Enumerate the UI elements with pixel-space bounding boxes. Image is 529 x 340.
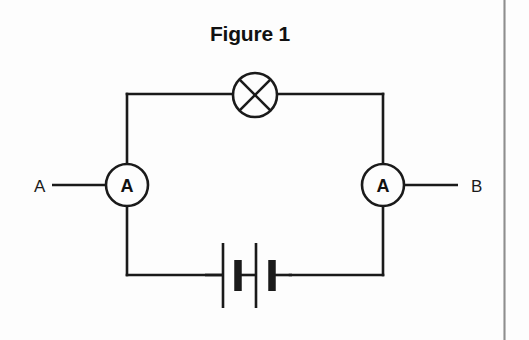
ammeter-left-symbol: A <box>106 164 148 206</box>
figure-container: Figure 1 <box>0 0 529 340</box>
circuit-diagram: A A A <box>0 0 529 340</box>
lamp-symbol <box>233 73 277 117</box>
page-margin-line <box>503 0 506 340</box>
battery-symbol <box>205 243 292 308</box>
ammeter-right-label: A <box>377 176 390 196</box>
terminal-a-group: A <box>34 177 106 196</box>
ammeter-right-symbol: A <box>362 164 404 206</box>
terminal-b-label: B <box>471 177 482 196</box>
terminal-a-label: A <box>34 177 46 196</box>
ammeter-left-label: A <box>121 176 134 196</box>
terminal-b-group: B <box>404 177 482 196</box>
